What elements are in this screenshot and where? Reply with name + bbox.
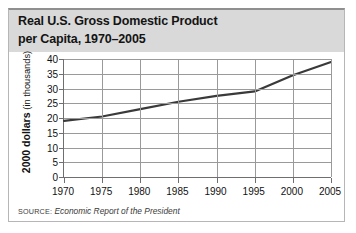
source-title: Economic Report of the President xyxy=(54,206,179,216)
x-tick-label: 1980 xyxy=(128,186,150,197)
horizontal-gridline xyxy=(64,103,331,104)
chart-title-line1: Real U.S. Gross Domestic Product xyxy=(18,14,217,28)
y-tick-mark xyxy=(59,59,64,60)
y-axis-label: 2000 dollars (in thousands) xyxy=(20,46,32,178)
vertical-gridline xyxy=(331,59,332,177)
plot-area xyxy=(63,59,331,178)
x-tick-label: 1975 xyxy=(90,186,112,197)
y-tick-mark xyxy=(59,118,64,119)
x-tick-mark xyxy=(64,178,65,183)
x-tick-mark xyxy=(102,178,103,183)
x-axis-tick-labels: 19701975198019851990199520002005 xyxy=(63,186,330,200)
x-tick-mark xyxy=(140,178,141,183)
horizontal-gridline xyxy=(64,148,331,149)
chart-title-line2: per Capita, 1970–2005 xyxy=(18,31,308,49)
x-tick-label: 2000 xyxy=(281,186,303,197)
vertical-gridline xyxy=(255,59,256,177)
y-tick-label: 40 xyxy=(47,54,58,65)
x-tick-label: 1990 xyxy=(204,186,226,197)
data-line xyxy=(64,62,331,121)
horizontal-gridline xyxy=(64,118,331,119)
source-label: SOURCE: xyxy=(18,207,52,216)
y-tick-mark xyxy=(59,103,64,104)
y-axis-tick-labels: 4035302520151050 xyxy=(36,52,58,183)
x-tick-mark xyxy=(217,178,218,183)
y-tick-mark xyxy=(59,148,64,149)
vertical-gridline xyxy=(217,59,218,177)
x-tick-mark xyxy=(331,178,332,183)
y-axis-label-bold: 2000 dollars xyxy=(20,113,32,174)
y-tick-label: 0 xyxy=(52,172,58,183)
y-tick-mark xyxy=(59,74,64,75)
chart-title: Real U.S. Gross Domestic Product per Cap… xyxy=(18,13,308,49)
x-tick-mark xyxy=(293,178,294,183)
vertical-gridline xyxy=(293,59,294,177)
y-tick-label: 25 xyxy=(47,98,58,109)
horizontal-gridline xyxy=(64,59,331,60)
plot-wrapper: 2000 dollars (in thousands) 403530252015… xyxy=(9,52,344,222)
y-tick-label: 15 xyxy=(47,127,58,138)
y-tick-mark xyxy=(59,89,64,90)
x-tick-label: 1995 xyxy=(243,186,265,197)
x-tick-label: 1985 xyxy=(166,186,188,197)
figure-container: Real U.S. Gross Domestic Product per Cap… xyxy=(8,8,345,222)
horizontal-gridline xyxy=(64,133,331,134)
y-tick-label: 30 xyxy=(47,83,58,94)
vertical-gridline xyxy=(140,59,141,177)
x-tick-label: 2005 xyxy=(319,186,341,197)
source-note: SOURCE: Economic Report of the President xyxy=(18,206,180,216)
vertical-gridline xyxy=(102,59,103,177)
horizontal-gridline xyxy=(64,89,331,90)
y-tick-mark xyxy=(59,133,64,134)
y-axis-label-units: (in thousands) xyxy=(22,51,32,110)
horizontal-gridline xyxy=(64,74,331,75)
x-tick-mark xyxy=(255,178,256,183)
y-tick-label: 20 xyxy=(47,113,58,124)
y-tick-label: 35 xyxy=(47,68,58,79)
x-tick-mark xyxy=(178,178,179,183)
vertical-gridline xyxy=(178,59,179,177)
y-tick-label: 5 xyxy=(52,157,58,168)
y-tick-mark xyxy=(59,162,64,163)
y-tick-label: 10 xyxy=(47,142,58,153)
x-tick-label: 1970 xyxy=(52,186,74,197)
horizontal-gridline xyxy=(64,162,331,163)
